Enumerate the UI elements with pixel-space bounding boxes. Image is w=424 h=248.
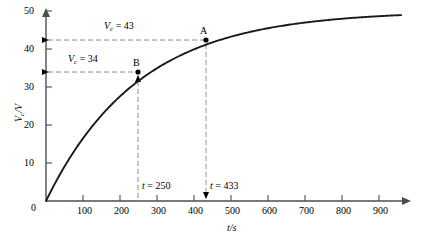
annotation-vc-34: Vc = 34 — [68, 54, 98, 66]
charging-curve — [46, 15, 401, 201]
x-tick-label-400: 400 — [188, 206, 203, 216]
y-axis-title: Vc/V — [14, 104, 26, 122]
y-axis-title-suffix: /V — [13, 104, 24, 113]
x-tick-label-700: 700 — [299, 206, 314, 216]
y-tick-label-10: 10 — [24, 158, 34, 168]
annotation-t-433-suffix: = 433 — [213, 180, 239, 191]
x-axis-title-suffix: /s — [230, 222, 237, 233]
annotation-t-433: t = 433 — [210, 181, 238, 191]
data-point-B — [135, 69, 140, 74]
x-tick-label-800: 800 — [336, 206, 351, 216]
x-tick-label-600: 600 — [262, 206, 277, 216]
chart-canvas — [0, 0, 424, 248]
y-tick-label-30: 30 — [24, 82, 34, 92]
annotation-vc-43-suffix: = 43 — [113, 20, 134, 31]
y-axis-title-sub: c — [18, 113, 26, 116]
chart-figure: 50 40 30 20 10 0 100 200 300 400 500 600… — [0, 0, 424, 248]
y-tick-label-40: 40 — [24, 44, 34, 54]
y-axis-title-prefix: V — [13, 116, 24, 122]
annotation-vc-43: Vc = 43 — [104, 21, 134, 33]
annotation-vc-34-suffix: = 34 — [77, 53, 98, 64]
point-label-B: B — [133, 58, 140, 68]
data-point-A — [203, 37, 208, 42]
annotation-t-250: t = 250 — [142, 181, 170, 191]
annotation-t-250-suffix: = 250 — [145, 180, 171, 191]
x-tick-label-100: 100 — [77, 206, 92, 216]
x-tick-label-200: 200 — [114, 206, 129, 216]
y-axis-ticks — [46, 11, 52, 163]
x-axis-ticks — [83, 195, 379, 201]
y-tick-label-50: 50 — [24, 6, 34, 16]
x-tick-label-900: 900 — [373, 206, 388, 216]
x-tick-label-500: 500 — [225, 206, 240, 216]
guide-lines-B — [48, 72, 138, 198]
y-tick-label-0: 0 — [31, 203, 36, 213]
x-tick-label-300: 300 — [151, 206, 166, 216]
x-axis-title: t/s — [227, 223, 236, 233]
x-axis — [46, 195, 402, 201]
point-label-A: A — [200, 26, 207, 36]
